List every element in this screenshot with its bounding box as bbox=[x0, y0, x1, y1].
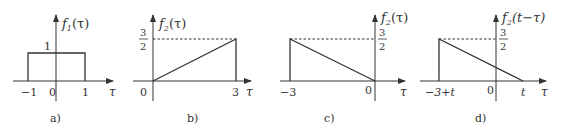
shifted-reflected-ramp bbox=[439, 39, 523, 81]
tick-label: 0 bbox=[140, 86, 147, 99]
panel-b: f2(τ) 3 2 0 3 τ b) bbox=[133, 15, 253, 125]
panel-a: f1(τ) 1 −1 0 1 τ a) bbox=[13, 15, 116, 125]
svg-text:2: 2 bbox=[140, 41, 146, 52]
tick-label: 0 bbox=[487, 84, 494, 97]
height-fraction: 3 2 bbox=[499, 27, 508, 52]
y-axis-label: f2(t−τ) bbox=[501, 10, 545, 27]
svg-text:3: 3 bbox=[500, 27, 506, 38]
tick-label: −3 bbox=[280, 86, 296, 99]
tick-label: 1 bbox=[82, 86, 89, 99]
panel-d: f2(t−τ) 3 2 −3+t 0 t τ d) bbox=[420, 10, 548, 125]
caption: b) bbox=[187, 112, 198, 125]
caption: d) bbox=[475, 112, 486, 125]
tick-label: −3+t bbox=[425, 86, 455, 99]
y-axis-label: f1(τ) bbox=[61, 16, 89, 33]
x-axis-label: τ bbox=[541, 85, 548, 99]
ramp-signal bbox=[153, 39, 236, 81]
convolution-figure: f1(τ) 1 −1 0 1 τ a) f2(τ) 3 2 0 3 τ b) f… bbox=[0, 0, 561, 136]
y-axis-label: f2(τ) bbox=[380, 10, 408, 27]
caption: c) bbox=[324, 112, 334, 125]
height-fraction: 3 2 bbox=[378, 27, 387, 52]
svg-text:2: 2 bbox=[379, 41, 385, 52]
x-axis-label: τ bbox=[400, 85, 407, 99]
height-label: 1 bbox=[44, 40, 51, 53]
reflected-ramp bbox=[290, 39, 375, 81]
panel-c: f2(τ) 3 2 −3 0 τ c) bbox=[280, 10, 408, 125]
tick-label: −1 bbox=[21, 86, 37, 99]
tick-label: 0 bbox=[49, 86, 56, 99]
x-axis-label: τ bbox=[109, 85, 116, 99]
tick-label: 3 bbox=[232, 86, 239, 99]
tick-label: 0 bbox=[365, 84, 372, 97]
svg-text:3: 3 bbox=[140, 27, 146, 38]
svg-text:3: 3 bbox=[379, 27, 385, 38]
svg-text:2: 2 bbox=[500, 41, 506, 52]
tick-label: t bbox=[521, 86, 526, 99]
y-axis-label: f2(τ) bbox=[158, 16, 186, 33]
caption: a) bbox=[50, 112, 61, 125]
height-fraction: 3 2 bbox=[139, 27, 148, 52]
x-axis-label: τ bbox=[246, 85, 253, 99]
